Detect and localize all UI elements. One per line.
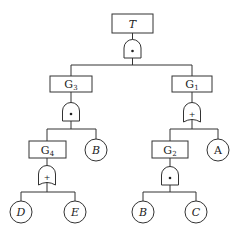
basic-event-d: D xyxy=(10,201,32,223)
svg-text:D: D xyxy=(16,206,26,219)
fault-tree-diagram: T G3 G1 + G4 + xyxy=(0,0,239,236)
intermediate-event-g1: G1 xyxy=(172,76,212,92)
svg-text:E: E xyxy=(70,206,79,219)
svg-text:+: + xyxy=(189,110,196,119)
svg-text:C: C xyxy=(192,206,201,219)
and-gate-g2 xyxy=(162,167,179,186)
svg-text:B: B xyxy=(138,206,147,219)
top-event-t: T xyxy=(112,14,153,33)
and-gate-top xyxy=(124,40,141,59)
svg-text:A: A xyxy=(213,144,223,157)
basic-event-c: C xyxy=(185,201,207,223)
and-gate-g3 xyxy=(63,103,80,122)
intermediate-event-g2: G2 xyxy=(152,141,188,158)
basic-event-b-right: B xyxy=(132,201,154,223)
intermediate-event-g4: G4 xyxy=(29,141,66,158)
basic-event-a: A xyxy=(207,139,229,161)
svg-text:B: B xyxy=(91,144,100,157)
basic-event-b-left: B xyxy=(85,139,107,161)
intermediate-event-g3: G3 xyxy=(50,76,92,92)
svg-text:+: + xyxy=(44,173,51,182)
basic-event-e: E xyxy=(64,201,86,223)
